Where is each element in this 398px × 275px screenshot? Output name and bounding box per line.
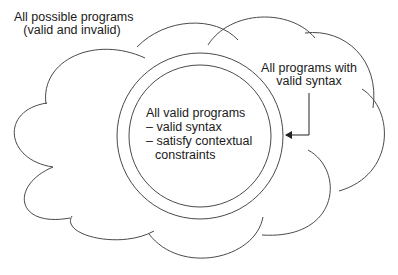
valid-label-bullet2-cont: constraints: [146, 148, 252, 162]
connector-arrow: [286, 93, 309, 135]
valid-region-label: All valid programs – valid syntax – sati…: [146, 106, 252, 162]
outer-label-line2: (valid and invalid): [14, 24, 130, 37]
syntax-region-label: All programs with valid syntax: [258, 62, 360, 88]
outer-region-label: All possible programs (valid and invalid…: [14, 11, 130, 37]
valid-label-title: All valid programs: [146, 106, 252, 120]
valid-label-bullet2: – satisfy contextual: [146, 134, 252, 148]
valid-label-bullet1: – valid syntax: [146, 120, 252, 134]
syntax-label-line2: valid syntax: [258, 75, 360, 88]
